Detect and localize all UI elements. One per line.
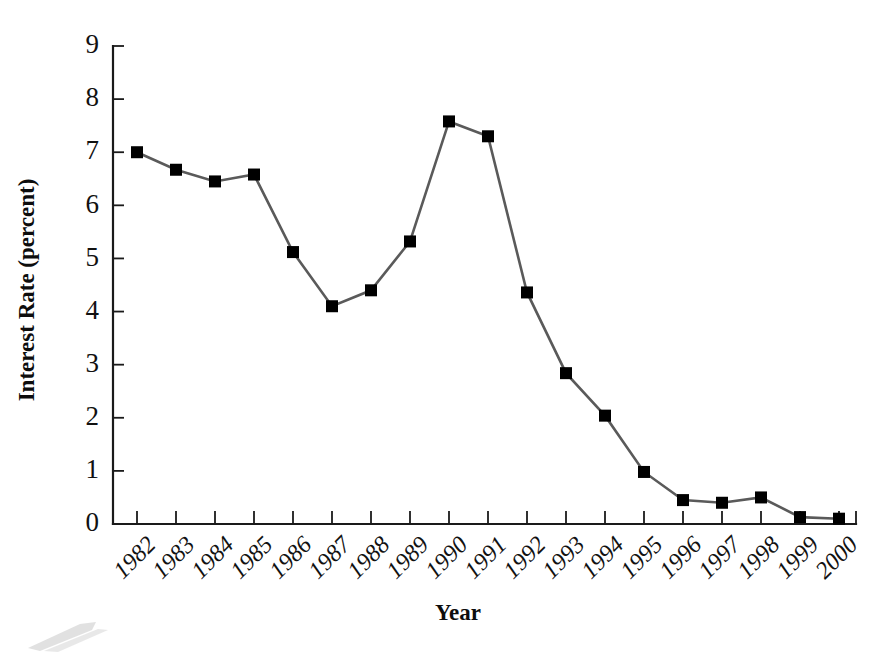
- y-tick-label: 5: [86, 242, 100, 272]
- data-point-marker: [170, 164, 182, 176]
- data-point-marker: [560, 367, 572, 379]
- y-tick-label: 1: [86, 454, 100, 484]
- x-axis-title: Year: [435, 600, 481, 625]
- data-point-marker: [287, 246, 299, 258]
- data-point-marker: [482, 130, 494, 142]
- data-point-marker: [638, 466, 650, 478]
- y-axis-title: Interest Rate (percent): [14, 179, 39, 402]
- y-tick-label: 8: [86, 82, 100, 112]
- y-tick-label: 4: [86, 295, 100, 325]
- y-tick-label: 0: [86, 507, 100, 537]
- data-point-marker: [521, 286, 533, 298]
- data-point-marker: [755, 491, 767, 503]
- data-point-marker: [443, 115, 455, 127]
- chart-figure: 0123456789 19821983198419851986198719881…: [0, 0, 886, 652]
- y-tick-label: 9: [86, 29, 100, 59]
- data-point-marker: [833, 513, 845, 525]
- data-point-marker: [404, 235, 416, 247]
- data-point-marker: [677, 494, 689, 506]
- data-point-marker: [209, 175, 221, 187]
- y-tick-label: 6: [86, 189, 100, 219]
- data-point-marker: [599, 410, 611, 422]
- data-point-marker: [365, 284, 377, 296]
- data-point-marker: [131, 146, 143, 158]
- data-point-marker: [326, 300, 338, 312]
- data-point-marker: [716, 497, 728, 509]
- y-tick-label: 3: [86, 348, 100, 378]
- interest-rate-line-chart: 0123456789 19821983198419851986198719881…: [0, 0, 886, 652]
- y-tick-label: 7: [86, 135, 100, 165]
- y-tick-label: 2: [86, 401, 100, 431]
- data-point-marker: [248, 169, 260, 181]
- data-point-marker: [794, 511, 806, 523]
